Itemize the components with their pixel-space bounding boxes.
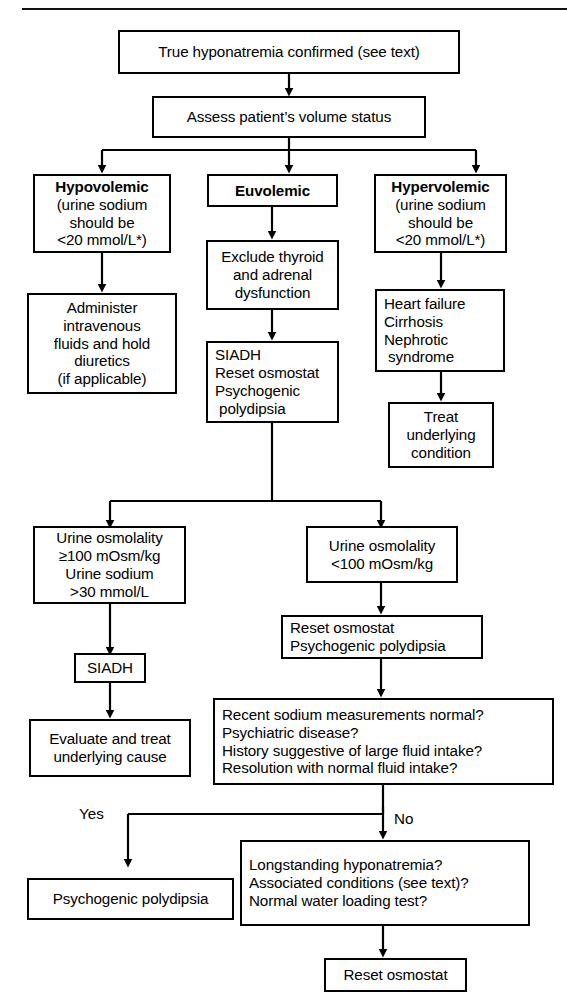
node-line: diuretics: [74, 352, 130, 370]
node-line: (urine sodium: [395, 196, 486, 214]
node-line: should be: [70, 214, 135, 232]
node-line: Hypervolemic: [391, 178, 489, 196]
node-line: Psychogenic polydipsia: [53, 890, 209, 908]
node-line: (if applicable): [58, 370, 147, 388]
node-line: Reset osmostat: [290, 619, 394, 637]
node-line: fluids and hold: [54, 335, 150, 353]
node-line: Psychogenic polydipsia: [290, 637, 446, 655]
node-line: Evaluate and treat: [49, 730, 170, 748]
node-true-hyponatremia-confirmed[interactable]: True hyponatremia confirmed (see text): [118, 30, 460, 74]
node-line: Longstanding hyponatremia?: [249, 856, 442, 874]
node-line: Euvolemic: [235, 182, 310, 200]
node-line: Psychiatric disease?: [222, 724, 358, 742]
node-line: (urine sodium: [57, 196, 148, 214]
node-line: Resolution with normal fluid intake?: [222, 759, 457, 777]
node-line: Urine osmolality: [56, 529, 162, 547]
node-line: Urine osmolality: [329, 537, 435, 555]
node-line: Urine sodium: [65, 565, 153, 583]
node-line: Associated conditions (see text)?: [249, 874, 469, 892]
node-line: Reset osmostat: [215, 364, 319, 382]
node-line: dysfunction: [235, 284, 311, 302]
node-line: Assess patient’s volume status: [187, 108, 391, 126]
node-line: polydipsia: [215, 400, 286, 418]
node-line: intravenous: [63, 317, 140, 335]
node-line: SIADH: [87, 659, 133, 677]
node-line: History suggestive of large fluid intake…: [222, 742, 482, 760]
node-screening-questions[interactable]: Recent sodium measurements normal? Psych…: [213, 698, 554, 785]
edge-label-yes: Yes: [79, 806, 104, 821]
node-line: Treat: [424, 408, 458, 426]
node-siadh-reset-osmostat-psychogenic[interactable]: SIADH Reset osmostat Psychogenic polydip…: [206, 341, 339, 423]
node-line: underlying cause: [53, 748, 166, 766]
node-line: Psychogenic: [215, 382, 300, 400]
node-siadh[interactable]: SIADH: [74, 653, 146, 683]
node-line: Recent sodium measurements normal?: [222, 706, 484, 724]
node-reset-osmostat-psychogenic-polydipsia[interactable]: Reset osmostat Psychogenic polydipsia: [281, 615, 483, 659]
node-line: Normal water loading test?: [249, 892, 427, 910]
node-line: Reset osmostat: [343, 966, 447, 984]
node-line: underlying: [406, 426, 475, 444]
node-line: <20 mmol/L*): [57, 231, 147, 249]
node-line: ≥100 mOsm/kg: [59, 547, 161, 565]
node-hypovolemic[interactable]: Hypovolemic (urine sodium should be <20 …: [33, 174, 171, 253]
node-line: Nephrotic: [384, 331, 448, 349]
node-urine-osmolality-low[interactable]: Urine osmolality <100 mOsm/kg: [306, 526, 458, 583]
node-line: syndrome: [384, 348, 454, 366]
node-line: True hyponatremia confirmed (see text): [158, 43, 420, 61]
edge-label-no: No: [394, 811, 413, 826]
node-line: >30 mmol/L: [70, 583, 149, 601]
node-line: Heart failure: [384, 295, 465, 313]
node-administer-iv-fluids[interactable]: Administer intravenous fluids and hold d…: [27, 293, 177, 394]
node-euvolemic[interactable]: Euvolemic: [207, 174, 338, 207]
node-hypervolemic[interactable]: Hypervolemic (urine sodium should be <20…: [374, 174, 507, 253]
node-treat-underlying-condition[interactable]: Treat underlying condition: [388, 402, 494, 468]
node-longstanding-questions[interactable]: Longstanding hyponatremia? Associated co…: [240, 840, 530, 926]
node-urine-osmolality-high[interactable]: Urine osmolality ≥100 mOsm/kg Urine sodi…: [33, 526, 186, 604]
node-line: Administer: [67, 299, 138, 317]
node-reset-osmostat[interactable]: Reset osmostat: [324, 958, 467, 992]
node-evaluate-and-treat-underlying-cause[interactable]: Evaluate and treat underlying cause: [29, 719, 191, 777]
node-exclude-thyroid-adrenal[interactable]: Exclude thyroid and adrenal dysfunction: [206, 240, 339, 310]
node-assess-volume-status[interactable]: Assess patient’s volume status: [152, 96, 426, 138]
flowchart-page: True hyponatremia confirmed (see text) A…: [0, 0, 567, 996]
node-line: should be: [408, 214, 473, 232]
node-line: SIADH: [215, 346, 261, 364]
node-line: and adrenal: [233, 266, 312, 284]
node-line: Exclude thyroid: [221, 248, 323, 266]
node-line: <100 mOsm/kg: [331, 555, 433, 573]
node-line: Hypovolemic: [55, 178, 148, 196]
node-psychogenic-polydipsia[interactable]: Psychogenic polydipsia: [27, 878, 234, 920]
node-line: condition: [411, 444, 471, 462]
node-line: <20 mmol/L*): [396, 231, 486, 249]
node-line: Cirrhosis: [384, 313, 443, 331]
node-heart-failure-cirrhosis-nephrotic[interactable]: Heart failure Cirrhosis Nephrotic syndro…: [375, 289, 505, 372]
